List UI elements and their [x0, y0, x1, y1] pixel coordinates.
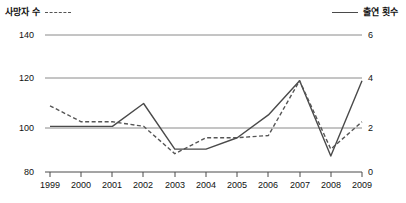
chart-container: 사망자 수 출연 횟수 140 120 100 80 6 4 2 0 1999 … — [0, 0, 406, 203]
x-axis-ticks — [50, 172, 362, 177]
gridlines — [45, 35, 362, 172]
series-line-appearances — [50, 81, 362, 156]
plot-area — [0, 0, 406, 203]
